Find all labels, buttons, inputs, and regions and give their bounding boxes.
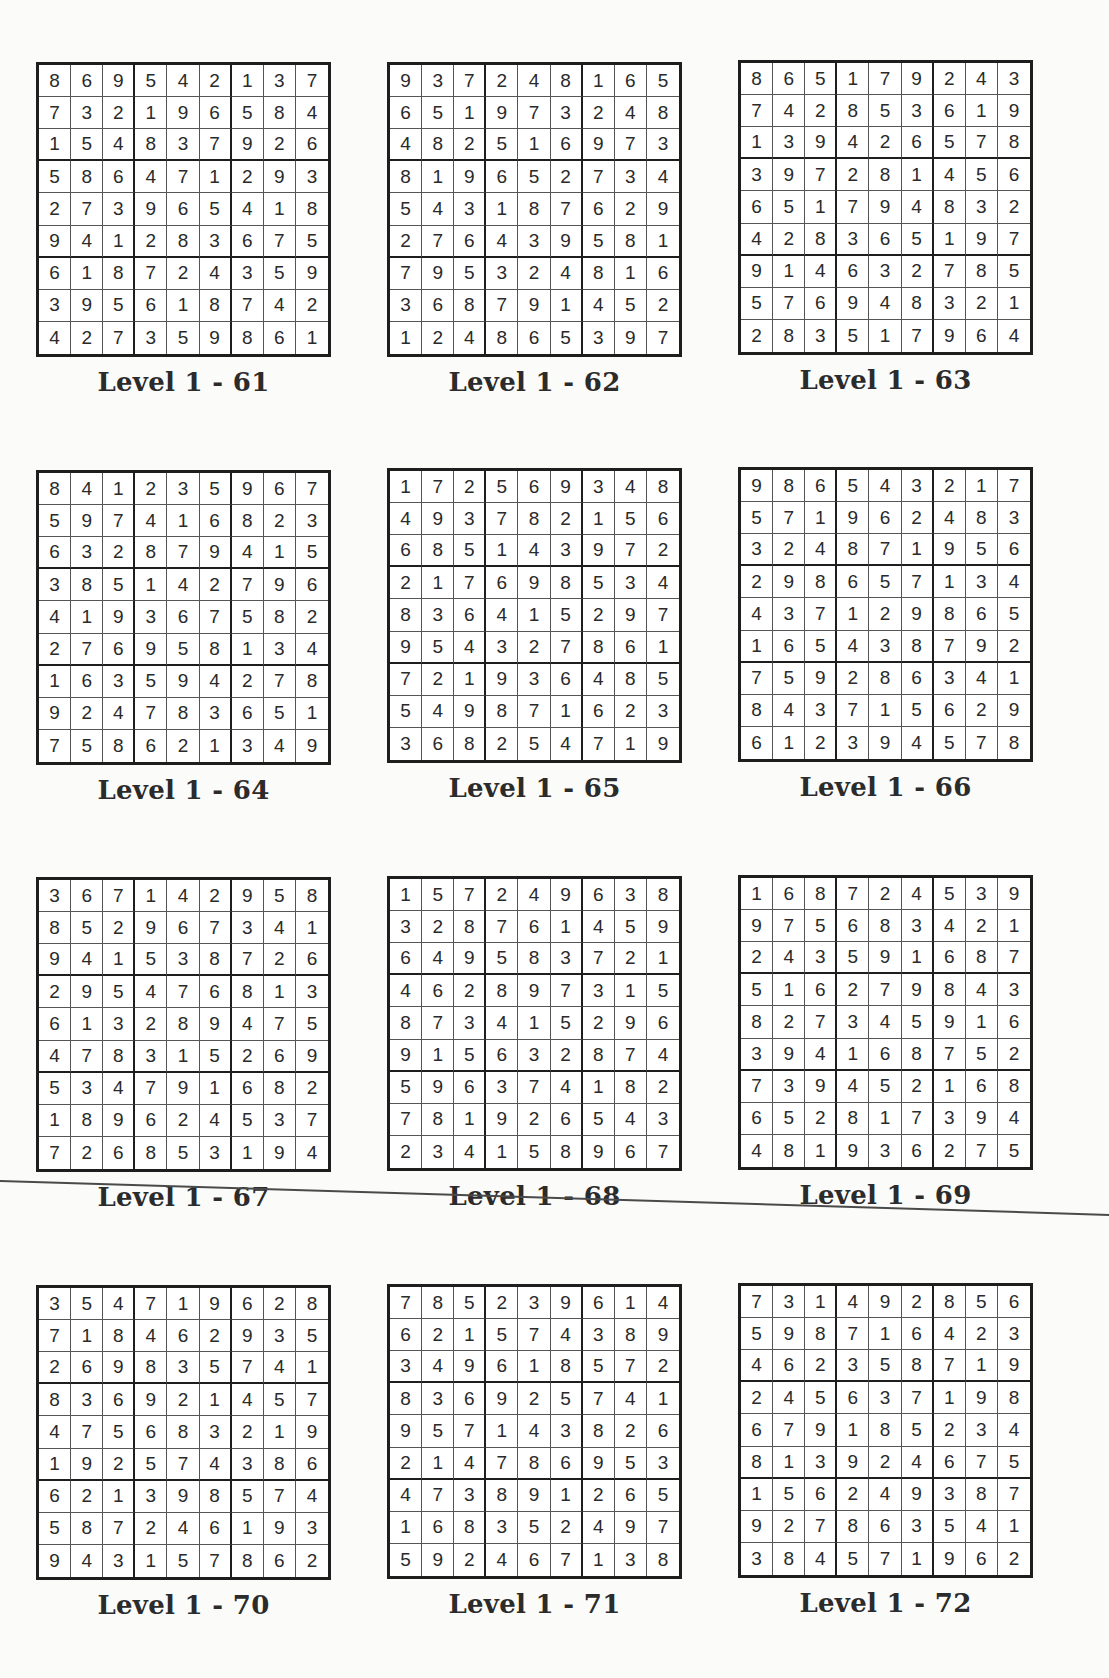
grid-cell: 4 [615,97,647,129]
grid-cell: 4 [837,631,869,663]
grid-cell: 1 [39,1449,71,1481]
grid-cell: 5 [39,505,71,537]
grid-cell: 8 [39,65,71,97]
grid-cell: 4 [39,601,71,633]
grid-cell: 6 [869,502,901,534]
grid-cell: 2 [551,1040,583,1072]
grid-cell: 6 [454,1072,486,1104]
grid-cell: 9 [773,159,805,191]
grid-cell: 1 [583,503,615,535]
grid-cell: 7 [71,634,103,666]
grid-cell: 1 [615,258,647,290]
grid-cell: 6 [805,470,837,502]
grid-cell: 7 [71,193,103,225]
grid-cell: 8 [647,1544,679,1576]
grid-cell: 5 [264,698,296,730]
puzzle-66: 9865432175719624833248719562986571344371… [738,467,1035,802]
grid-cell: 7 [805,1511,837,1543]
grid-cell: 7 [454,65,486,97]
grid-cell: 5 [518,1136,550,1168]
grid-cell: 5 [966,1286,998,1318]
grid-cell: 8 [551,1136,583,1168]
grid-cell: 1 [103,1481,135,1513]
grid-cell: 1 [773,1447,805,1479]
grid-cell: 7 [390,664,422,696]
grid-cell: 4 [902,727,934,759]
grid-cell: 4 [39,1041,71,1073]
grid-cell: 7 [264,1481,296,1513]
grid-cell: 3 [741,159,773,191]
grid-cell: 8 [390,161,422,193]
grid-cell: 5 [902,695,934,727]
grid-cell: 2 [422,322,454,354]
grid-cell: 8 [805,1318,837,1350]
grid-cell: 8 [934,598,966,630]
grid-cell: 4 [869,1479,901,1511]
grid-cell: 9 [934,320,966,352]
grid-cell: 9 [837,1135,869,1167]
grid-cell: 1 [390,879,422,911]
grid-cell: 7 [837,191,869,223]
grid-cell: 3 [518,1287,550,1319]
grid-cell: 9 [422,258,454,290]
grid-cell: 3 [422,1136,454,1168]
grid-cell: 7 [869,1543,901,1575]
grid-cell: 5 [934,727,966,759]
grid-cell: 3 [486,258,518,290]
grid-cell: 1 [805,1135,837,1167]
grid-cell: 5 [422,97,454,129]
grid-cell: 4 [966,663,998,695]
puzzle-label: Level 1 - 62 [387,367,682,397]
grid-cell: 3 [934,1479,966,1511]
grid-cell: 4 [805,256,837,288]
grid-cell: 4 [135,976,167,1008]
grid-cell: 7 [741,663,773,695]
grid-cell: 6 [773,63,805,95]
puzzle-label: Level 1 - 72 [738,1588,1033,1618]
puzzle-label: Level 1 - 66 [738,772,1033,802]
grid-cell: 7 [296,65,328,97]
grid-cell: 8 [583,258,615,290]
grid-cell: 9 [869,191,901,223]
grid-cell: 3 [837,727,869,759]
grid-cell: 1 [551,696,583,728]
grid-cell: 5 [518,728,550,760]
grid-cell: 8 [167,1416,199,1448]
grid-cell: 9 [264,569,296,601]
grid-cell: 7 [869,534,901,566]
grid-cell: 2 [264,129,296,161]
grid-cell: 6 [773,631,805,663]
grid-cell: 3 [869,1382,901,1414]
grid-cell: 4 [741,224,773,256]
grid-cell: 5 [135,1449,167,1481]
grid-cell: 2 [39,193,71,225]
grid-cell: 9 [998,95,1030,127]
grid-cell: 3 [135,1041,167,1073]
grid-cell: 7 [966,1447,998,1479]
grid-cell: 4 [773,942,805,974]
grid-cell: 9 [486,664,518,696]
grid-cell: 3 [167,1352,199,1384]
puzzle-label: Level 1 - 63 [738,365,1033,395]
grid-cell: 9 [390,65,422,97]
grid-cell: 4 [264,912,296,944]
grid-cell: 7 [390,1104,422,1136]
grid-cell: 9 [103,1105,135,1137]
grid-cell: 7 [390,1287,422,1319]
grid-cell: 8 [966,1479,998,1511]
grid-cell: 4 [486,226,518,258]
grid-cell: 3 [837,224,869,256]
grid-cell: 1 [39,129,71,161]
grid-cell: 9 [264,1513,296,1545]
grid-cell: 5 [39,1073,71,1105]
grid-cell: 5 [71,912,103,944]
grid-cell: 4 [551,1319,583,1351]
grid-cell: 6 [167,601,199,633]
grid-cell: 6 [264,473,296,505]
grid-cell: 3 [998,63,1030,95]
grid-cell: 8 [902,1039,934,1071]
grid-cell: 2 [486,879,518,911]
grid-cell: 9 [518,567,550,599]
grid-cell: 7 [264,666,296,698]
grid-cell: 6 [200,976,232,1008]
